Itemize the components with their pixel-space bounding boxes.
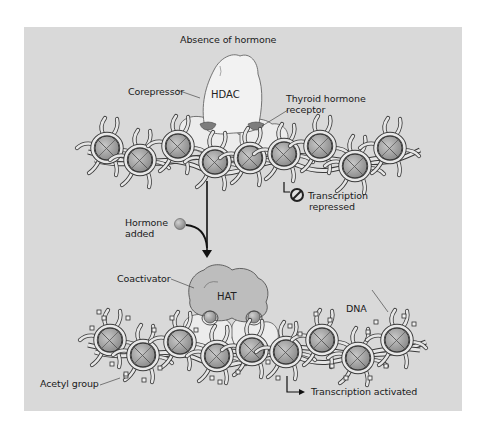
- receptor-label-line1: Thyroid hormone: [286, 93, 366, 104]
- transcription-activated-label: Transcription activated: [311, 386, 417, 397]
- top-nucleosomes: [77, 116, 419, 193]
- transcription-repressed-marker: [284, 182, 303, 201]
- receptor-label-line2: receptor: [286, 104, 325, 115]
- corepressor-label: Corepressor: [128, 86, 184, 97]
- transcription-repressed-label-line1: Transcription: [308, 190, 368, 201]
- hormone-sphere-icon: [175, 219, 186, 230]
- title-absence-of-hormone: Absence of hormone: [180, 34, 276, 45]
- dna-leader-line: [372, 290, 388, 312]
- diagram-artwork: [0, 0, 484, 426]
- no-symbol-icon: [291, 189, 303, 201]
- hormone-added-label-line1: Hormone: [125, 217, 168, 228]
- acetyl-group-label: Acetyl group: [40, 378, 99, 389]
- down-arrow-icon: [186, 181, 212, 258]
- hat-label: HAT: [217, 291, 237, 302]
- hdac-corepressor: [179, 55, 288, 156]
- hdac-label: HDAC: [211, 89, 240, 100]
- hormone-added-label-line2: added: [125, 228, 154, 239]
- coactivator-label: Coactivator: [117, 273, 171, 284]
- acetyl-leader-line: [100, 378, 120, 385]
- transcription-repressed-label-line2: repressed: [309, 201, 355, 212]
- dna-label: DNA: [346, 303, 367, 314]
